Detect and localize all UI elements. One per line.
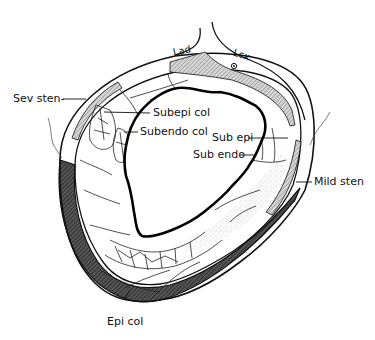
label-sub-endo: Sub endo — [193, 149, 245, 160]
label-sev-sten: Sev sten- — [13, 93, 65, 104]
label-subendo-col: Subendo col — [140, 126, 208, 137]
label-sub-epi: Sub epi — [212, 132, 253, 143]
label-mild-sten: Mild sten — [314, 176, 364, 187]
label-epi-col: Epi col — [107, 316, 143, 327]
label-subepi-col: Subepi col — [153, 107, 210, 118]
